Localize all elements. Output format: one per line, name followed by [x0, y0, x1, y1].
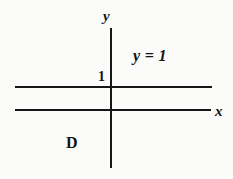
- y-axis-label: y: [103, 9, 110, 24]
- y-axis-tick-label-1: 1: [98, 70, 105, 84]
- coordinate-plane-figure: y x y = 1 1 D: [0, 0, 233, 179]
- x-axis-line: [15, 109, 211, 111]
- region-label-d: D: [66, 135, 78, 151]
- horizontal-line-y-equals-1: [15, 86, 212, 88]
- x-axis-label: x: [215, 104, 223, 119]
- line-equation-label: y = 1: [133, 48, 167, 64]
- y-axis-line: [110, 28, 112, 168]
